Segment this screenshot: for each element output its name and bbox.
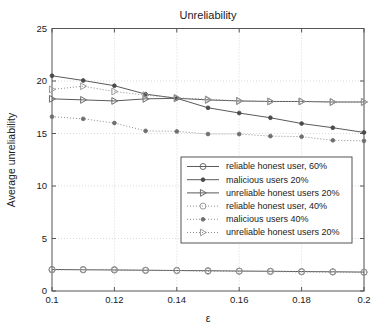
marker-circle-filled: [237, 132, 241, 136]
chart-figure: Unreliability 0510152025 0.10.120.140.16…: [0, 0, 386, 329]
chart-legend[interactable]: reliable honest user, 60%malicious users…: [181, 157, 352, 243]
marker-circle-filled: [300, 135, 304, 139]
x-tick-label: 0.18: [292, 294, 311, 305]
marker-circle-filled: [81, 117, 85, 121]
y-tick-label: 5: [42, 233, 47, 244]
legend-label: malicious users 20%: [226, 175, 309, 185]
legend-label: malicious users 40%: [226, 214, 309, 224]
x-tick-label: 0.12: [105, 294, 124, 305]
y-tick-label: 15: [36, 128, 47, 139]
x-tick-label: 0.16: [230, 294, 249, 305]
marker-circle-filled: [50, 115, 54, 119]
marker-circle-filled: [362, 131, 366, 135]
x-tick-label: 0.1: [45, 294, 58, 305]
y-tick-label: 20: [36, 75, 47, 86]
y-tick-label: 25: [36, 23, 47, 34]
legend-label: reliable honest user, 40%: [226, 201, 327, 211]
marker-circle-filled: [50, 74, 54, 78]
marker-circle-filled: [144, 129, 148, 133]
marker-circle-filled: [300, 122, 304, 126]
marker-circle-filled: [113, 84, 117, 88]
y-axis-label: Average unreliability: [5, 112, 17, 207]
legend-label: reliable honest user, 60%: [226, 161, 327, 171]
marker-circle-filled: [81, 79, 85, 83]
marker-circle-filled: [113, 121, 117, 125]
chart-title: Unreliability: [180, 9, 237, 21]
legend-label: unreliable honest users 20%: [226, 227, 340, 237]
marker-circle-filled: [206, 106, 210, 110]
legend-label: unreliable honest users 20%: [226, 188, 340, 198]
marker-circle-filled: [269, 116, 273, 120]
marker-circle-filled: [362, 139, 366, 143]
marker-circle-filled: [206, 132, 210, 136]
marker-circle-filled: [331, 138, 335, 142]
y-tick-label: 10: [36, 180, 47, 191]
marker-circle-filled: [175, 130, 179, 134]
marker-circle-filled: [201, 217, 205, 221]
marker-circle-filled: [331, 126, 335, 130]
x-axis-label: ε: [206, 312, 211, 324]
unreliability-line-chart: Unreliability 0510152025 0.10.120.140.16…: [0, 0, 386, 329]
marker-circle-filled: [201, 178, 205, 182]
x-tick-label: 0.2: [357, 294, 370, 305]
x-tick-label: 0.14: [168, 294, 187, 305]
marker-circle-filled: [269, 134, 273, 138]
marker-circle-filled: [237, 111, 241, 115]
